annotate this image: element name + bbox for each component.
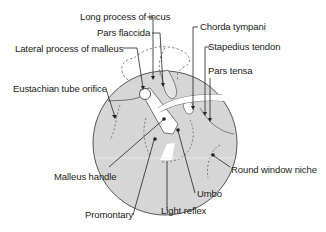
label-long-process-of-incus: Long process of incus <box>80 11 170 22</box>
label-malleus-handle: Malleus handle <box>54 171 117 182</box>
lateral-process-circle <box>140 89 151 100</box>
label-pars-flaccida: Pars flaccida <box>97 27 150 38</box>
label-round-window-niche: Round window niche <box>231 164 317 175</box>
label-promontary: Promontary <box>85 209 133 220</box>
label-pars-tensa: Pars tensa <box>208 65 252 76</box>
label-stapedius-tendon: Stapedius tendon <box>208 41 280 52</box>
tympanic-membrane-diagram <box>0 0 326 232</box>
label-chorda-tympani: Chorda tympani <box>200 21 266 32</box>
label-umbo: Umbo <box>197 188 222 199</box>
label-lateral-process-of-malleus: Lateral process of malleus <box>15 43 123 54</box>
label-light-reflex: Light reflex <box>161 205 206 216</box>
label-eustachian-tube-orifice: Eustachian tube orifice <box>13 83 107 94</box>
